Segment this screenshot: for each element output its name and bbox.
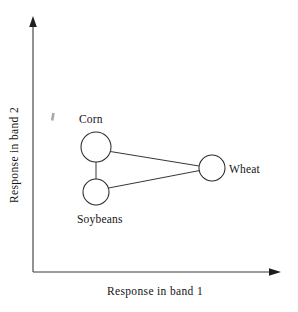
- node-label-wheat: Wheat: [229, 163, 261, 175]
- cluster-circle-corn[interactable]: [81, 132, 111, 162]
- spectral-response-figure: Corn Soybeans Wheat Response in band 1 R…: [0, 0, 298, 312]
- arrow-right-icon: [269, 268, 281, 275]
- figure-canvas: Corn Soybeans Wheat Response in band 1 R…: [0, 0, 298, 312]
- arrow-up-icon: [29, 16, 37, 27]
- edge-soybeans-wheat: [109, 171, 200, 188]
- node-label-corn: Corn: [79, 113, 103, 125]
- edge-corn-wheat: [110, 152, 199, 167]
- cluster-circle-wheat[interactable]: [199, 155, 225, 181]
- stray-ink-mark: [51, 113, 55, 121]
- x-axis-label: Response in band 1: [107, 285, 203, 298]
- y-axis-label: Response in band 2: [8, 107, 21, 203]
- cluster-circle-soybeans[interactable]: [83, 179, 109, 205]
- node-label-soybeans: Soybeans: [77, 213, 123, 226]
